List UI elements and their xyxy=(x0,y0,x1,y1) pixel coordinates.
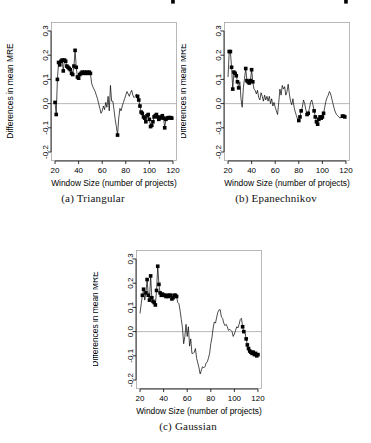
series-path-b xyxy=(228,52,345,125)
y-tick-label: -0.1 xyxy=(214,120,223,134)
data-point xyxy=(151,120,155,124)
panel-caption-triangular: (a) Triangular xyxy=(0,192,186,204)
y-tick-label: -0.2 xyxy=(126,373,135,387)
panel-epanechnikov: -0.2-0.10.00.10.20.3 Differences in mean… xyxy=(181,0,371,215)
data-point xyxy=(150,124,154,128)
data-point xyxy=(171,0,175,4)
panel-caption-epanechnikov: (b) Epanechnikov xyxy=(181,192,371,204)
data-point xyxy=(156,264,160,268)
y-tick-label: 0.0 xyxy=(214,98,223,110)
x-tick-label: 60 xyxy=(271,166,280,175)
data-point xyxy=(155,289,159,293)
data-point xyxy=(297,119,301,123)
x-tick-label: 40 xyxy=(247,166,256,175)
data-point xyxy=(343,115,347,119)
x-tick-label: 80 xyxy=(121,166,130,175)
y-tick-label: 0.3 xyxy=(214,25,223,37)
y-tick-label: 0.1 xyxy=(214,73,223,85)
data-point xyxy=(150,296,154,300)
x-tick-label: 20 xyxy=(51,166,60,175)
panel-caption-gaussian: (c) Gaussian xyxy=(93,420,283,432)
x-axis-a: 20406080100120 Window Size (number of pr… xyxy=(51,161,181,188)
y-axis-title-c: Differences in mean MRE xyxy=(93,271,100,367)
y-tick-label: -0.1 xyxy=(126,348,135,362)
data-point xyxy=(141,111,145,115)
data-point xyxy=(321,115,325,119)
data-point xyxy=(229,50,233,54)
data-point xyxy=(73,49,77,53)
data-point xyxy=(298,115,302,119)
data-point xyxy=(56,78,60,82)
data-point xyxy=(316,122,320,126)
x-axis-title-a: Window Size (number of projects) xyxy=(51,178,177,188)
data-point xyxy=(146,113,150,117)
data-point xyxy=(146,293,150,297)
data-point xyxy=(250,68,254,72)
data-point xyxy=(64,59,68,63)
x-tick-label: 100 xyxy=(143,166,157,175)
data-point xyxy=(241,325,245,329)
data-point xyxy=(236,80,240,84)
data-point xyxy=(234,74,238,78)
chart-svg-triangular: -0.2-0.10.00.10.20.3 Differences in mean… xyxy=(0,0,186,190)
y-axis-title-a: Differences in mean MRE xyxy=(5,43,15,139)
data-point xyxy=(242,330,246,334)
data-point xyxy=(69,68,73,72)
x-tick-label: 80 xyxy=(206,394,215,403)
chart-svg-gaussian: -0.2-0.10.00.10.20.3 Differences in mean… xyxy=(93,228,283,418)
x-tick-label: 100 xyxy=(316,166,330,175)
x-tick-label: 120 xyxy=(251,394,265,403)
data-point xyxy=(256,353,260,357)
data-point xyxy=(58,63,62,67)
panel-triangular: -0.2-0.10.00.10.20.3 Differences in mean… xyxy=(0,0,186,215)
y-tick-label: 0.3 xyxy=(126,253,135,265)
data-point xyxy=(54,113,58,117)
data-point xyxy=(136,95,140,99)
y-tick-label: 0.2 xyxy=(41,49,50,61)
data-point xyxy=(77,76,81,80)
y-tick-label: 0.2 xyxy=(126,277,135,289)
data-point xyxy=(138,104,142,108)
data-point xyxy=(148,118,152,122)
data-point xyxy=(246,343,250,347)
panel-gaussian: -0.2-0.10.00.10.20.3 Differences in mean… xyxy=(93,228,283,443)
x-tick-label: 120 xyxy=(339,166,353,175)
x-tick-label: 60 xyxy=(98,166,107,175)
data-point xyxy=(89,72,93,76)
x-axis-c: 20406080100120 Window Size (number of pr… xyxy=(136,389,266,416)
plot-frame-a xyxy=(52,23,177,161)
y-tick-label: 0.0 xyxy=(126,326,135,338)
y-tick-label: 0.0 xyxy=(41,98,50,110)
data-point xyxy=(244,337,248,341)
data-point xyxy=(306,111,310,115)
data-point xyxy=(61,69,65,73)
y-tick-label: -0.1 xyxy=(41,120,50,134)
data-point xyxy=(71,73,75,77)
data-point xyxy=(74,65,78,69)
x-tick-label: 20 xyxy=(136,394,145,403)
series-points-b xyxy=(227,0,347,126)
y-axis-a: -0.2-0.10.00.10.20.3 Differences in mean… xyxy=(5,25,51,159)
data-point xyxy=(175,295,179,299)
chart-svg-epanechnikov: -0.2-0.10.00.10.20.3 Differences in mean… xyxy=(181,0,371,190)
x-tick-label: 40 xyxy=(74,166,83,175)
y-axis-b: -0.2-0.10.00.10.20.3 Differences in mean… xyxy=(181,25,224,159)
x-axis-title-b: Window Size (number of projects) xyxy=(224,178,350,188)
plot-area-triangular: -0.2-0.10.00.10.20.3 Differences in mean… xyxy=(0,0,186,190)
data-point xyxy=(231,87,235,91)
y-tick-label: 0.3 xyxy=(41,25,50,37)
data-point xyxy=(244,67,248,71)
plot-area-gaussian: -0.2-0.10.00.10.20.3 Differences in mean… xyxy=(93,228,283,418)
y-axis-c: -0.2-0.10.00.10.20.3 Differences in mean… xyxy=(93,253,136,387)
y-tick-label: -0.2 xyxy=(214,145,223,159)
data-point xyxy=(299,109,303,113)
data-point xyxy=(157,283,161,287)
data-point xyxy=(170,116,174,120)
data-point xyxy=(116,133,120,137)
x-tick-label: 120 xyxy=(166,166,180,175)
data-point xyxy=(251,80,255,84)
data-point xyxy=(144,120,148,124)
x-tick-label: 80 xyxy=(294,166,303,175)
data-point xyxy=(149,274,153,278)
y-tick-label: 0.1 xyxy=(41,73,50,85)
